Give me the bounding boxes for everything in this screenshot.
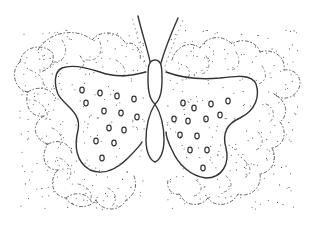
butterfly-drawing — [0, 0, 315, 229]
wing-spot — [94, 138, 98, 144]
wing-spot — [181, 100, 185, 106]
wing-spot — [204, 116, 208, 122]
wing-spot — [84, 100, 88, 106]
right-antenna — [160, 18, 178, 66]
wing-spot — [186, 118, 190, 124]
wing-spot — [205, 147, 209, 153]
wing-spot — [122, 127, 126, 133]
wing-spot — [188, 147, 192, 153]
wing-spot — [135, 114, 139, 120]
wing-spot — [80, 87, 84, 93]
wing-spot — [201, 165, 205, 171]
left-antenna-dots — [132, 16, 146, 66]
butterfly-abdomen — [146, 104, 164, 162]
wing-spot — [100, 155, 104, 161]
right-wing-outline — [166, 72, 257, 178]
wing-spot — [112, 140, 116, 146]
wing-spot — [172, 116, 176, 122]
wing-spot — [119, 110, 123, 116]
wing-spot — [226, 98, 230, 104]
wing-spot — [209, 101, 213, 107]
butterfly-thorax — [148, 60, 162, 104]
wing-spot — [102, 108, 106, 114]
wing-spot — [107, 125, 111, 131]
wing-spot — [218, 112, 222, 118]
wing-spot — [115, 93, 119, 99]
wing-spot — [178, 132, 182, 138]
wing-spot — [132, 96, 136, 102]
butterfly-illustration — [0, 0, 315, 229]
wing-spot — [195, 133, 199, 139]
wing-spot — [98, 90, 102, 96]
